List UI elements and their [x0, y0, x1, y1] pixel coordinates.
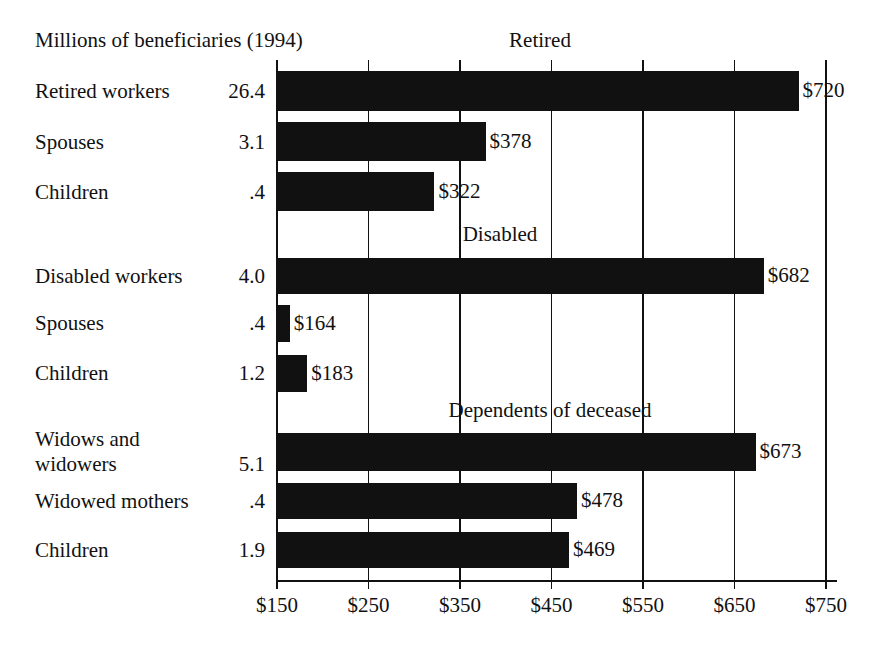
row-label: Widows and widowers — [35, 427, 140, 477]
bar — [277, 122, 486, 161]
x-axis-tick — [825, 580, 827, 589]
row-label: Disabled workers — [35, 264, 183, 289]
row-label: Retired workers — [35, 79, 170, 104]
row-beneficiaries-value: 3.1 — [239, 130, 265, 155]
x-axis-tick-label: $550 — [622, 592, 664, 618]
bar — [277, 532, 569, 568]
bar — [277, 433, 756, 471]
x-axis-tick — [551, 580, 553, 589]
x-axis-line — [277, 580, 837, 582]
bar-value-label: $682 — [768, 263, 810, 288]
chart-title: Millions of beneficiaries (1994) — [35, 28, 303, 53]
x-axis-tick-label: $750 — [805, 592, 847, 618]
row-label: Children — [35, 180, 109, 205]
bar-value-label: $469 — [573, 537, 615, 562]
x-axis-tick — [368, 580, 370, 589]
gridline — [825, 60, 827, 580]
row-label: Spouses — [35, 130, 104, 155]
row-beneficiaries-value: 4.0 — [239, 264, 265, 289]
row-beneficiaries-value: .4 — [249, 311, 265, 336]
x-axis-tick-label: $250 — [348, 592, 390, 618]
bar — [277, 71, 799, 111]
x-axis-tick-label: $450 — [531, 592, 573, 618]
row-beneficiaries-value: .4 — [249, 489, 265, 514]
gridline — [734, 60, 736, 580]
bar — [277, 355, 307, 392]
row-label: Children — [35, 538, 109, 563]
group-header: Retired — [509, 28, 571, 52]
row-beneficiaries-value: 26.4 — [228, 79, 265, 104]
bar-value-label: $673 — [760, 439, 802, 464]
x-axis-tick-label: $350 — [439, 592, 481, 618]
bar-chart: Millions of beneficiaries (1994) Retired… — [0, 0, 887, 653]
row-label: Spouses — [35, 311, 104, 336]
row-label: Widowed mothers — [35, 489, 189, 514]
bar-value-label: $164 — [294, 311, 336, 336]
row-label: Children — [35, 361, 109, 386]
x-axis-tick — [276, 580, 278, 589]
gridline — [642, 60, 644, 580]
bar-value-label: $378 — [490, 129, 532, 154]
x-axis-tick — [459, 580, 461, 589]
row-beneficiaries-value: 5.1 — [239, 452, 265, 477]
row-beneficiaries-value: 1.2 — [239, 361, 265, 386]
bar — [277, 305, 290, 342]
bar — [277, 172, 434, 211]
bar-value-label: $183 — [311, 361, 353, 386]
x-axis-tick-label: $150 — [256, 592, 298, 618]
bar-value-label: $720 — [803, 78, 845, 103]
bar-value-label: $478 — [581, 488, 623, 513]
row-beneficiaries-value: .4 — [249, 180, 265, 205]
bar — [277, 483, 577, 519]
x-axis-tick-label: $650 — [714, 592, 756, 618]
x-axis-tick — [642, 580, 644, 589]
row-beneficiaries-value: 1.9 — [239, 538, 265, 563]
group-header: Disabled — [463, 222, 538, 246]
bar — [277, 258, 764, 294]
x-axis-tick — [734, 580, 736, 589]
bar-value-label: $322 — [438, 179, 480, 204]
